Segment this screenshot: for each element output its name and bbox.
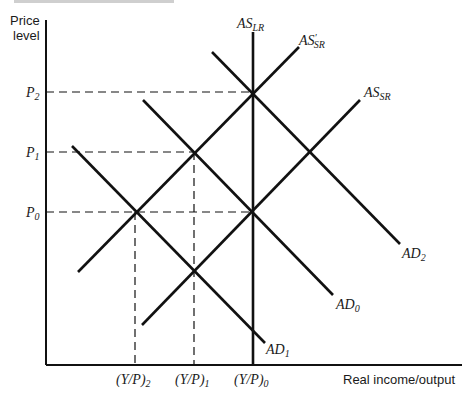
x-axis-label: Real income/output (343, 372, 455, 387)
yp1-label: (Y/P)1 (175, 372, 210, 389)
ad0-curve (143, 100, 333, 295)
curves (72, 32, 400, 365)
as-lr-label: ASLR (236, 16, 264, 33)
yp0-label: (Y/P)0 (234, 372, 269, 389)
as-sr-prime-label: AS′SR (298, 32, 325, 50)
p0-label: P0 (25, 205, 40, 222)
as-sr-label: ASSR (363, 85, 391, 102)
y-axis-label-2: level (13, 28, 40, 43)
ad0-label: AD0 (335, 297, 360, 314)
as-ad-diagram: Price level Real income/output P2 P1 P0 … (0, 0, 472, 396)
price-guides (46, 92, 253, 365)
as-sr-prime-curve (78, 47, 299, 272)
ad1-curve (72, 146, 265, 343)
ad2-curve (212, 52, 400, 244)
ad2-label: AD2 (401, 246, 426, 263)
p2-label: P2 (25, 85, 40, 102)
cropped-caption (14, 0, 174, 3)
p1-label: P1 (25, 145, 40, 162)
ad1-label: AD1 (265, 342, 290, 359)
y-axis-label: Price (10, 13, 40, 28)
yp2-label: (Y/P)2 (116, 372, 151, 389)
